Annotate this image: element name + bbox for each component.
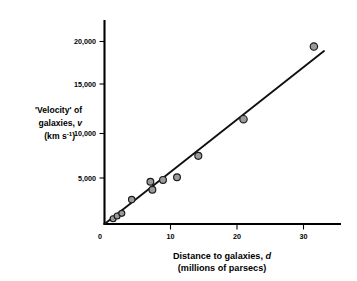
data-point: [147, 178, 154, 185]
y-axis-title-line3: (km s-1): [44, 130, 75, 141]
y-axis-title-line2-text: galaxies,: [39, 118, 78, 128]
data-point: [149, 186, 156, 193]
x-axis-title-text: Distance to galaxies,: [173, 251, 266, 261]
y-tick-label-10000: 10,000: [74, 129, 96, 138]
x-axis-title-line2: (millions of parsecs): [178, 263, 266, 273]
x-axis-title-variable-d: d: [265, 251, 271, 261]
data-point: [129, 196, 135, 202]
y-axis-title-variable-v: v: [77, 118, 83, 128]
data-point: [310, 43, 317, 50]
data-point: [174, 174, 181, 181]
x-axis-title-line1: Distance to galaxies, d: [173, 251, 272, 261]
y-axis-title-line2: galaxies, v: [39, 118, 84, 128]
data-point: [195, 152, 202, 159]
y-axis-title-line1: 'Velocity' of: [35, 105, 82, 115]
x-tick-label-20: 20: [233, 232, 241, 241]
y-axis-unit-open: (km s: [44, 131, 67, 141]
data-point: [119, 210, 125, 216]
axes-group: [104, 20, 342, 225]
best-fit-line: [105, 51, 325, 224]
y-tick-label-5000: 5,000: [78, 174, 96, 183]
x-tick-label-10: 10: [167, 232, 175, 241]
x-axis-title: Distance to galaxies, d (millions of par…: [173, 251, 272, 273]
y-tick-label-20000: 20,000: [74, 37, 96, 46]
x-tick-labels: 10 20 30 0: [98, 232, 308, 241]
origin-label: 0: [98, 232, 102, 241]
y-axis-unit-close: ): [72, 131, 75, 141]
chart-svg: 5,000 10,000 15,000 20,000 10 20 30 0: [0, 0, 357, 281]
x-tick-label-30: 30: [300, 232, 308, 241]
hubble-diagram-figure: 5,000 10,000 15,000 20,000 10 20 30 0: [0, 0, 357, 281]
y-tick-label-15000: 15,000: [74, 80, 96, 89]
data-point: [240, 116, 247, 123]
data-point: [160, 177, 167, 184]
